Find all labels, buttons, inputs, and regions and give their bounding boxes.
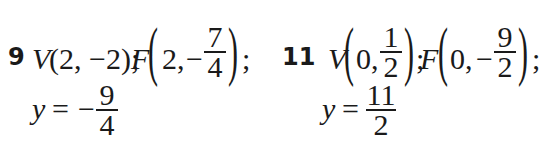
problem-number: 9: [8, 45, 25, 69]
numerator: 11: [367, 82, 396, 108]
focus-label: F: [131, 44, 149, 74]
focus-y-fraction: 7 4: [204, 24, 226, 80]
vertex-label: V: [32, 44, 50, 74]
numerator: 9: [100, 82, 115, 108]
numerator: 7: [208, 24, 223, 50]
denominator: 4: [208, 54, 223, 80]
close-paren: ): [518, 18, 528, 84]
equals-sign: =: [52, 94, 69, 124]
directrix-sign: −: [78, 94, 95, 124]
denominator: 2: [384, 54, 399, 80]
denominator: 2: [374, 112, 389, 138]
denominator: 4: [100, 112, 115, 138]
close-paren: ): [404, 18, 414, 84]
separator: ;: [242, 44, 250, 74]
focus-y-sign: −: [476, 44, 493, 74]
directrix-var: y: [322, 94, 335, 124]
problem-number: 11: [282, 45, 315, 69]
numerator: 1: [384, 24, 399, 50]
open-paren: (: [148, 18, 158, 84]
open-paren: (: [344, 18, 354, 84]
separator: ;: [532, 44, 540, 74]
close-paren: ): [228, 18, 238, 84]
directrix-var: y: [32, 94, 45, 124]
denominator: 2: [498, 54, 513, 80]
vertex-coordinates: (2, −2);: [49, 44, 139, 74]
focus-y-fraction: 9 2: [494, 24, 516, 80]
equals-sign: =: [342, 94, 359, 124]
numerator: 9: [498, 24, 513, 50]
vertex-y-fraction: 1 2: [380, 24, 402, 80]
focus-x: 2,: [162, 44, 185, 74]
focus-x: 0,: [450, 44, 473, 74]
focus-label: F: [420, 44, 438, 74]
directrix-fraction: 9 4: [96, 82, 118, 138]
open-paren: (: [438, 18, 448, 84]
directrix-fraction: 11 2: [366, 82, 396, 138]
focus-y-sign: −: [186, 44, 203, 74]
vertex-x: 0,: [356, 44, 379, 74]
